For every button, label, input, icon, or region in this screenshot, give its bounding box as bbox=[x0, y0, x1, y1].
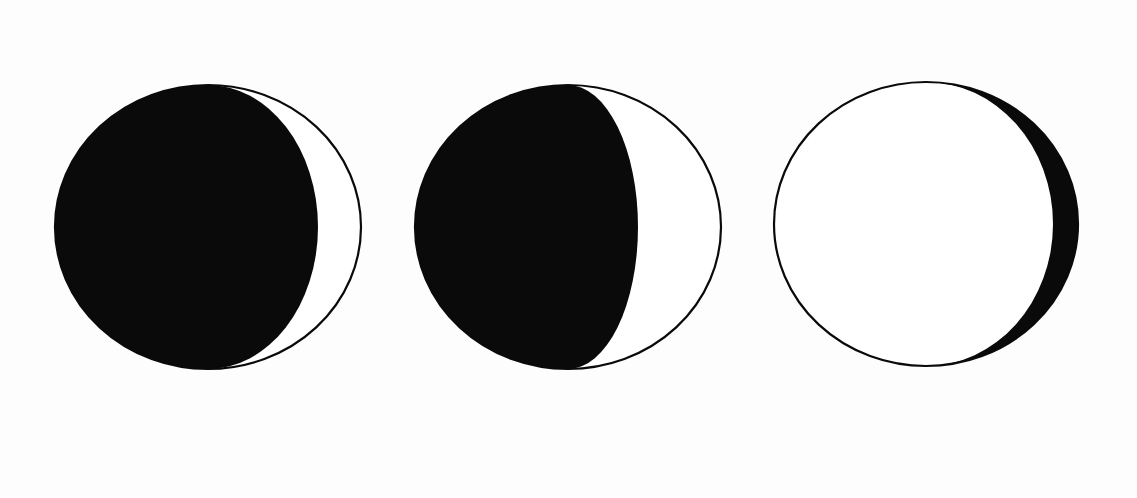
moon-phase-3 bbox=[774, 82, 1078, 366]
moon-phase-1 bbox=[55, 85, 361, 369]
moon-phases-diagram bbox=[0, 0, 1137, 498]
moon-phases-canvas bbox=[0, 0, 1137, 498]
moon-phase-2 bbox=[415, 85, 721, 369]
moon-shadow bbox=[55, 85, 318, 369]
moon-shadow bbox=[415, 85, 638, 369]
